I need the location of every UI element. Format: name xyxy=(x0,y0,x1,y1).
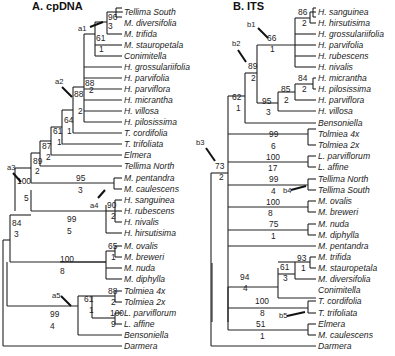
taxon-label: H. parviflora xyxy=(124,84,171,94)
bootstrap-value: 88 xyxy=(74,89,84,99)
bootstrap-value: 64 xyxy=(64,115,74,125)
bootstrap-value: 88 xyxy=(108,286,118,296)
taxon-label: H. pilosissima xyxy=(318,84,371,94)
taxon-label: M. ovalis xyxy=(124,241,159,251)
taxon-label: M. diphylla xyxy=(124,274,165,284)
bootstrap-value: 100 xyxy=(255,296,269,306)
decay-index: 1 xyxy=(57,137,62,147)
taxon-label: H. sanguinea xyxy=(318,7,369,17)
its-support-values: 8626618928428529536219961001773299410087… xyxy=(215,7,308,341)
taxon-label: Elmera xyxy=(318,319,345,329)
taxon-label: Bensoniella xyxy=(318,118,363,128)
bootstrap-value: 75 xyxy=(269,219,279,229)
callout-label: b2 xyxy=(232,39,240,48)
taxon-label: Tolmiea 4x xyxy=(124,286,166,296)
callout-arrow-icon xyxy=(98,190,105,198)
callout-label: b1 xyxy=(247,20,255,29)
taxon-label: Tolmiea 4x xyxy=(318,129,360,139)
taxon-label: T. cordifolia xyxy=(124,128,168,138)
bootstrap-value: 62 xyxy=(232,92,242,102)
bootstrap-value: 51 xyxy=(256,319,266,329)
bootstrap-value: 99 xyxy=(269,129,279,139)
decay-index: 1 xyxy=(89,305,94,315)
decay-index: 8 xyxy=(260,308,265,318)
decay-index: 3 xyxy=(14,229,19,239)
callout-arrow-icon xyxy=(61,296,71,306)
decay-index: 3 xyxy=(78,185,83,195)
decay-index: 1 xyxy=(301,263,306,273)
callout-arrow-icon xyxy=(238,50,246,62)
decay-index: 8 xyxy=(268,208,273,218)
taxon-label: M. ovalis xyxy=(318,196,353,206)
decay-index: 5 xyxy=(24,193,29,203)
decay-index: 2 xyxy=(35,166,40,176)
bootstrap-value: 85 xyxy=(281,84,291,94)
callout-label: b4 xyxy=(283,186,291,195)
taxon-label: H. pilosissima xyxy=(124,117,177,127)
decay-index: 4 xyxy=(271,186,276,196)
taxon-label: M. breweri xyxy=(318,207,359,217)
taxon-label: H. micrantha xyxy=(124,95,173,105)
taxon-label: M. caulescens xyxy=(318,330,374,340)
taxon-label: H. rubescens xyxy=(318,51,369,61)
cpdna-callouts: a1a2a3a4a5 xyxy=(7,22,105,306)
taxon-label: L. parviflorum xyxy=(318,151,370,161)
taxon-label: M. pentandra xyxy=(318,241,369,251)
bootstrap-value: 84 xyxy=(298,73,308,83)
bootstrap-value: 100 xyxy=(266,152,280,162)
bootstrap-value: 100 xyxy=(266,197,280,207)
bootstrap-value: 84 xyxy=(12,218,22,228)
taxon-label: H. villosa xyxy=(318,106,353,116)
bootstrap-value: 94 xyxy=(240,272,250,282)
decay-index: 2 xyxy=(302,18,307,28)
decay-index: 3 xyxy=(266,107,271,117)
callout-arrow-icon xyxy=(206,148,215,161)
decay-index: 1 xyxy=(99,44,104,54)
taxon-label: Conimitella xyxy=(124,51,167,61)
taxon-label: H. parvifolia xyxy=(318,40,364,50)
decay-index: 4 xyxy=(243,283,248,293)
taxon-label: H. nivalis xyxy=(124,217,160,227)
bootstrap-value: 95 xyxy=(262,96,272,106)
decay-index: 8 xyxy=(60,266,65,276)
taxon-label: H. parviflora xyxy=(318,95,365,105)
its-taxon-labels: H. sanguineaH. hirsutisimaH. grossularii… xyxy=(318,7,384,351)
decay-index: 2 xyxy=(111,211,116,221)
taxon-label: T. trifoliata xyxy=(124,139,164,149)
taxon-label: H. rubescens xyxy=(124,206,175,216)
taxon-label: L. parviflorum xyxy=(124,308,176,318)
callout-arrow-icon xyxy=(287,312,305,316)
taxon-label: Tolmiea 2x xyxy=(318,140,360,150)
callout-label: a2 xyxy=(55,77,63,86)
bootstrap-value: 86 xyxy=(298,7,308,17)
bootstrap-value: 61 xyxy=(280,262,290,272)
taxon-label: M. diversifolia xyxy=(318,274,371,284)
bootstrap-value: 99 xyxy=(269,174,279,184)
taxon-label: M. stauropetala xyxy=(318,263,377,273)
taxon-label: T. trifoliata xyxy=(318,308,358,318)
bootstrap-value: 89 xyxy=(248,61,258,71)
bootstrap-value: 73 xyxy=(215,161,225,171)
bootstrap-value: 61 xyxy=(53,126,63,136)
taxon-label: H. parvifolia xyxy=(124,73,170,83)
decay-index: 1 xyxy=(111,252,116,262)
taxon-label: H. sanguinea xyxy=(124,195,175,205)
decay-index: 2 xyxy=(111,297,116,307)
callout-label: a3 xyxy=(7,163,15,172)
taxon-label: Darmera xyxy=(318,341,352,351)
decay-index: 2 xyxy=(302,84,307,94)
decay-index: 1 xyxy=(67,126,72,136)
taxon-label: M. caulescens xyxy=(124,184,180,194)
callout-label: a1 xyxy=(78,24,86,33)
taxon-label: M. diphylla xyxy=(318,230,359,240)
taxon-label: M. diversifolia xyxy=(124,18,177,28)
callout-arrow-icon xyxy=(90,22,103,27)
callout-arrow-icon xyxy=(62,87,72,97)
decay-index: 4 xyxy=(50,321,55,331)
callout-label: a4 xyxy=(90,201,98,210)
panel-a-title: A. cpDNA xyxy=(32,0,83,12)
cpdna-taxon-labels: Tellima SouthM. diversifoliaM. trifidaM.… xyxy=(124,7,190,351)
bootstrap-value: 100 xyxy=(60,254,74,264)
taxon-label: M. nuda xyxy=(124,263,155,273)
bootstrap-value: 61 xyxy=(84,294,94,304)
